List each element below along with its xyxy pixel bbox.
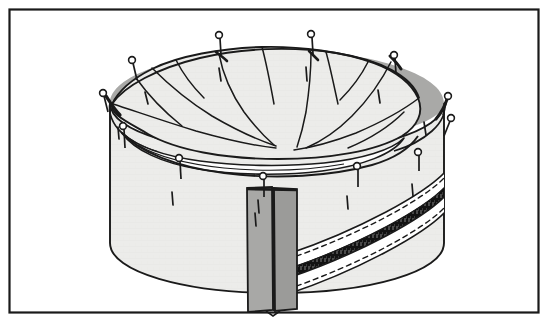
placket-panel-right (274, 188, 297, 311)
fabric-grain-tick (172, 192, 173, 205)
zipper-placket-tab[interactable] (247, 187, 297, 316)
fabric-grain-tick (255, 213, 256, 226)
placket-panel-left (247, 187, 273, 312)
fabric-grain-tick (412, 184, 413, 196)
placket-grain-tick (258, 200, 259, 213)
fabric-grain-tick (118, 127, 119, 139)
placket-center-fold (273, 187, 274, 311)
illustration-canvas: Round Box Cushion — Pinning the Cover Ov… (0, 0, 548, 330)
placket-top-shadow (247, 189, 297, 190)
cushion-illustration (0, 0, 548, 330)
fabric-grain-tick (347, 196, 348, 209)
fabric-grain-tick (306, 67, 307, 81)
